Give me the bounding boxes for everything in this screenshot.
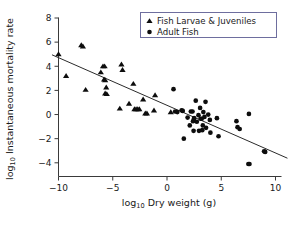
data-point-circle — [216, 134, 221, 139]
data-point-triangle — [119, 67, 125, 72]
data-point-circle — [185, 115, 190, 120]
data-points-layer — [55, 42, 267, 166]
data-point-triangle — [152, 92, 158, 97]
y-tick-label: 6 — [46, 37, 52, 47]
axes-layer — [55, 18, 282, 181]
data-point-triangle — [103, 85, 109, 90]
data-point-triangle — [126, 101, 132, 106]
x-axis-title: log10 Dry weight (g) — [122, 197, 216, 210]
data-point-circle — [193, 98, 198, 103]
data-point-circle — [181, 136, 186, 141]
data-point-circle — [175, 110, 180, 115]
data-point-triangle — [118, 62, 124, 67]
axis-labels-layer: −4−202468−10−50510log10 Dry weight (g)lo… — [4, 13, 281, 210]
data-point-circle — [190, 109, 195, 114]
data-point-circle — [203, 100, 208, 105]
legend-entry-label: Adult Fish — [157, 27, 199, 37]
y-tick-label: 0 — [46, 110, 52, 120]
data-point-triangle — [55, 51, 61, 56]
plot-canvas: −4−202468−10−50510log10 Dry weight (g)lo… — [0, 0, 299, 235]
data-point-circle — [263, 150, 268, 155]
data-point-circle — [204, 125, 209, 130]
axis-spines — [59, 18, 282, 177]
data-point-triangle — [130, 81, 136, 86]
legend-entry-label: Fish Larvae & Juveniles — [157, 16, 257, 26]
x-tick-label: −5 — [106, 183, 119, 193]
data-point-circle — [234, 119, 239, 124]
x-tick-label: 5 — [218, 183, 224, 193]
y-tick-label: −2 — [38, 134, 51, 144]
data-point-circle — [191, 128, 196, 133]
y-axis-title-text: log10 Instantaneous mortality rate — [4, 18, 17, 180]
data-point-circle — [237, 127, 242, 132]
x-tick-label: 0 — [164, 183, 170, 193]
y-axis-title: log10 Instantaneous mortality rate — [4, 18, 17, 180]
data-point-circle — [194, 119, 199, 124]
regression-line — [52, 55, 287, 158]
y-tick-label: 8 — [46, 13, 52, 23]
data-point-circle — [171, 87, 176, 92]
data-point-circle — [215, 116, 220, 121]
x-tick-label: −10 — [49, 183, 68, 193]
data-point-circle — [198, 106, 203, 111]
data-point-triangle — [117, 106, 123, 111]
data-point-triangle — [140, 97, 146, 102]
data-point-circle — [201, 110, 206, 115]
x-tick-label: 10 — [270, 183, 282, 193]
scatter-plot-figure: −4−202468−10−50510log10 Dry weight (g)lo… — [0, 0, 299, 235]
x-axis-title-text: log10 Dry weight (g) — [122, 197, 216, 210]
data-point-circle — [206, 112, 211, 117]
trendline — [52, 55, 287, 158]
data-point-circle — [180, 109, 185, 114]
legend-marker-circle — [147, 30, 152, 35]
y-tick-label: −4 — [38, 158, 52, 168]
data-point-circle — [208, 130, 213, 135]
data-point-triangle — [83, 87, 89, 92]
legend-entry[interactable]: Fish Larvae & Juveniles — [146, 16, 256, 26]
data-point-triangle — [151, 107, 157, 112]
y-tick-label: 2 — [46, 86, 52, 96]
data-point-triangle — [63, 73, 69, 78]
y-tick-label: 4 — [46, 62, 52, 72]
data-point-circle — [208, 118, 213, 123]
data-point-circle — [187, 123, 192, 128]
data-point-circle — [247, 112, 252, 117]
data-point-circle — [247, 162, 252, 167]
data-point-triangle — [98, 69, 104, 74]
chart-legend[interactable]: Fish Larvae & JuvenilesAdult Fish — [141, 13, 277, 38]
